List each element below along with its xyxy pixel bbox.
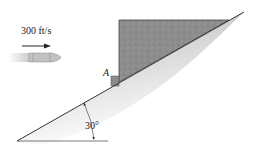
block-a [111, 76, 119, 86]
diagram-canvas [0, 0, 255, 157]
velocity-arrow-head-icon [44, 44, 51, 49]
bullet-icon [29, 53, 61, 62]
angle-arrow-bottom-icon [92, 137, 94, 140]
velocity-label: 300 ft/s [21, 25, 51, 36]
point-a-label: A [103, 67, 109, 78]
angle-label: 30° [85, 120, 99, 131]
bullet-trail [8, 53, 30, 62]
